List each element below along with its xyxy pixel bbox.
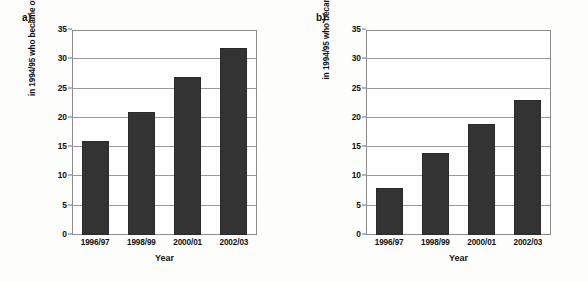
y-tick-label: 30	[58, 53, 67, 63]
y-tick-label: 25	[352, 83, 361, 93]
y-tick-label: 15	[58, 141, 67, 151]
y-tick-label: 10	[352, 170, 361, 180]
panel-b-x-axis-title: Year	[366, 253, 551, 263]
bar-slot	[412, 30, 458, 235]
bar-slot	[118, 30, 164, 235]
bar-slot	[505, 30, 551, 235]
bar-slot	[366, 30, 412, 235]
bar[interactable]	[220, 48, 247, 235]
bar[interactable]	[514, 100, 541, 235]
panel-b-label: b)	[316, 12, 326, 23]
panel-b: b) Percentage of overweight adults in 19…	[294, 0, 588, 282]
y-tick-label: 30	[352, 53, 361, 63]
panel-a-plot-area: 05101520253035	[72, 30, 257, 235]
bar[interactable]	[376, 188, 403, 235]
x-tick-label: 1998/99	[412, 238, 458, 247]
figure-container: a) Percentage of normal–weight adults in…	[0, 0, 588, 282]
x-tick-label: 1996/97	[72, 238, 118, 247]
y-tick-label: 25	[58, 83, 67, 93]
panel-b-plot-area: 05101520253035	[366, 30, 551, 235]
bar[interactable]	[468, 124, 495, 235]
y-tick-label: 5	[62, 200, 67, 210]
panel-b-x-tick-labels: 1996/971998/992000/012002/03	[366, 238, 551, 247]
y-tick-label: 35	[352, 24, 361, 34]
y-tick-label: 0	[62, 229, 67, 239]
y-tick-label: 10	[58, 170, 67, 180]
y-tick-label: 20	[352, 112, 361, 122]
panel-a-y-axis-title: Percentage of normal–weight adults in 19…	[17, 0, 47, 60]
panel-a: a) Percentage of normal–weight adults in…	[0, 0, 294, 282]
panel-a-x-axis-title: Year	[72, 253, 257, 263]
x-tick-label: 2000/01	[165, 238, 211, 247]
bar[interactable]	[422, 153, 449, 235]
bar[interactable]	[82, 141, 109, 235]
y-tick-label: 20	[58, 112, 67, 122]
panel-a-bars	[72, 30, 257, 235]
panel-b-y-axis-title: Percentage of overweight adults in 1994/…	[311, 0, 341, 60]
bar-slot	[211, 30, 257, 235]
bar-slot	[459, 30, 505, 235]
y-tick-label: 15	[352, 141, 361, 151]
bar-slot	[165, 30, 211, 235]
x-tick-label: 1996/97	[366, 238, 412, 247]
panel-a-x-tick-labels: 1996/971998/992000/012002/03	[72, 238, 257, 247]
x-tick-label: 2002/03	[211, 238, 257, 247]
y-tick-label: 0	[356, 229, 361, 239]
x-tick-label: 2002/03	[505, 238, 551, 247]
y-tick-label: 5	[356, 200, 361, 210]
y-tick-label: 35	[58, 24, 67, 34]
bar[interactable]	[128, 112, 155, 235]
x-tick-label: 2000/01	[459, 238, 505, 247]
panel-a-label: a)	[22, 12, 31, 23]
bar-slot	[72, 30, 118, 235]
panel-b-bars	[366, 30, 551, 235]
bar[interactable]	[174, 77, 201, 235]
x-tick-label: 1998/99	[118, 238, 164, 247]
